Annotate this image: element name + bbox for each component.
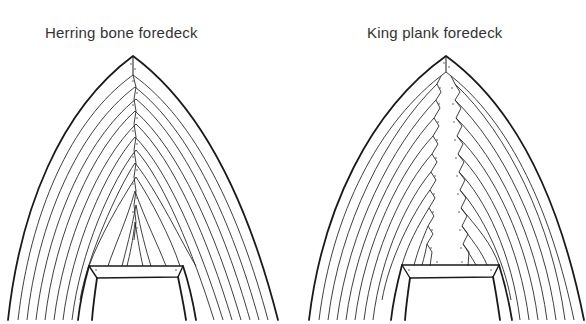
herring-bone-planks <box>27 75 259 320</box>
left-deck-beam <box>89 266 183 278</box>
right-hull-outline <box>309 56 584 320</box>
king-plank-planks <box>328 84 565 320</box>
foredeck-diagrams <box>0 0 586 324</box>
right-deck-beam <box>402 265 499 278</box>
king-plank-diagram <box>309 56 584 320</box>
herring-bone-diagram <box>8 56 278 320</box>
